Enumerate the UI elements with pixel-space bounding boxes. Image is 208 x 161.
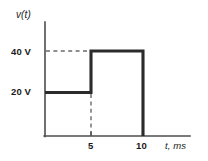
waveform-trace: [45, 51, 143, 136]
waveform-figure: v(t) 40 V 20 V 5 10 t, ms: [0, 0, 208, 161]
x-tick-label-10: 10: [136, 141, 147, 151]
x-tick-label-5: 5: [88, 141, 93, 151]
y-axis-label: v(t): [16, 10, 31, 20]
y-tick-label-40v: 40 V: [11, 47, 31, 57]
x-axis-label: t, ms: [165, 141, 186, 151]
plot-canvas: [0, 0, 208, 161]
y-tick-label-20v: 20 V: [11, 87, 31, 97]
